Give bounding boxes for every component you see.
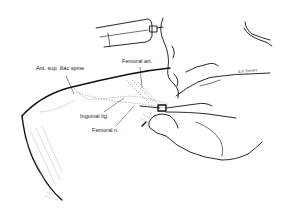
inguinal-skin-line xyxy=(22,68,170,116)
syringe-hub xyxy=(150,26,157,32)
upper-hand xyxy=(161,18,272,98)
artist-signature: S.P. Somers xyxy=(238,68,258,74)
tubing xyxy=(166,103,212,108)
femoral-block-illustration: Ant. sup. iliac spine Femoral art. Ingui… xyxy=(0,0,286,217)
leader-inguinal-lig xyxy=(104,98,124,112)
tubing-lower xyxy=(166,112,236,118)
label-femoral-art: Femoral art. xyxy=(122,58,153,64)
body-outline xyxy=(22,68,170,200)
syringe-barrel-line xyxy=(100,30,148,37)
syringe-tip xyxy=(157,27,163,28)
hand-outline-left xyxy=(161,18,179,98)
lower-thumb xyxy=(154,114,178,128)
illustration-canvas: Ant. sup. iliac spine Femoral art. Ingui… xyxy=(0,0,286,217)
skin-fold-mark xyxy=(142,122,146,126)
leader-asis xyxy=(66,76,74,94)
femoral-vessels-dashed xyxy=(126,80,158,104)
label-ant-sup-iliac-spine: Ant. sup. iliac spine xyxy=(36,65,84,71)
knuckle-line xyxy=(172,46,174,58)
leader-femoral-n xyxy=(116,106,134,126)
syringe-barrel xyxy=(96,19,152,47)
label-inguinal-lig: Inguinal lig. xyxy=(80,113,109,119)
iliac-crest-dashed xyxy=(40,100,74,112)
palm-crease xyxy=(196,122,223,156)
lower-wrist xyxy=(248,142,262,154)
wrist-cuff xyxy=(245,22,270,40)
syringe xyxy=(96,19,163,47)
syringe-plunger-mark xyxy=(108,33,110,46)
lower-hand-needle xyxy=(140,103,262,160)
label-femoral-n: Femoral n. xyxy=(92,127,119,133)
upper-finger-line xyxy=(186,63,218,72)
upper-forearm-line xyxy=(176,73,270,96)
upper-hand-crease xyxy=(200,80,220,86)
